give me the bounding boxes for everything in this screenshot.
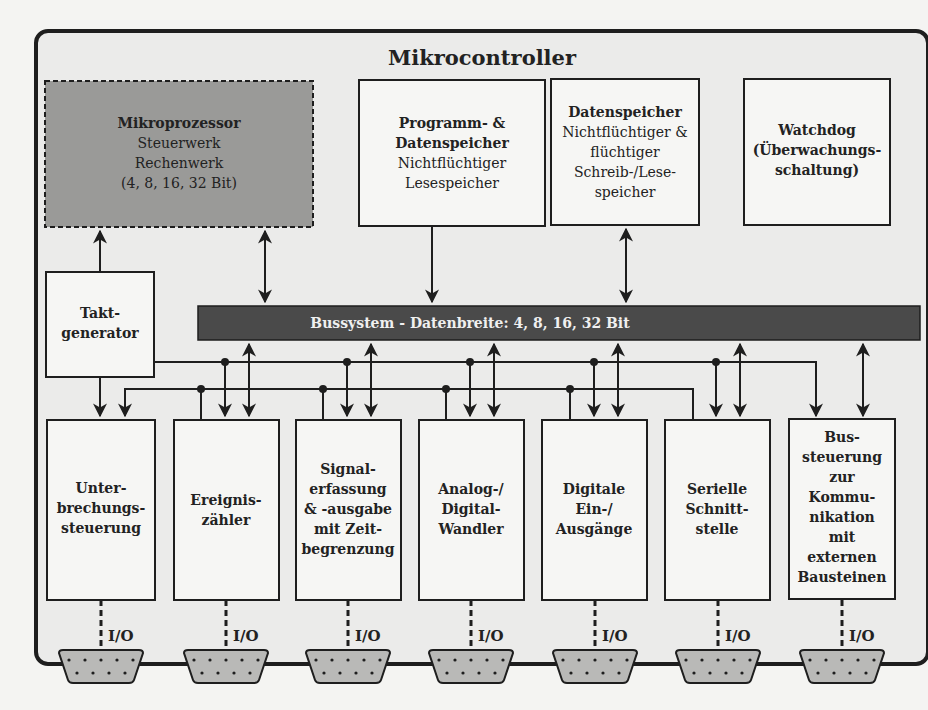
bus-label: Bussystem - Datenbreite: 4, 8, 16, 32 Bi… [310, 315, 630, 331]
clock-label: Takt- [80, 305, 120, 321]
peripheral-signal-capture: Signal- erfassung & -ausgabe mit Zeit- b… [296, 420, 401, 600]
watchdog-block: Watchdog (Überwachungs- schaltung) [744, 79, 890, 225]
watchdog-title: Watchdog [777, 122, 856, 138]
svg-text:externen: externen [807, 549, 876, 565]
processor-title: Mikroprozessor [117, 115, 241, 131]
clock-label: generator [61, 325, 139, 341]
data-memory-title: Datenspeicher [568, 104, 682, 120]
peripheral-serial-interface: Serielle Schnitt- stelle [665, 420, 770, 600]
db9-connector-icon [184, 650, 268, 683]
program-memory-line: Lesespeicher [405, 175, 499, 191]
svg-text:brechungs-: brechungs- [57, 500, 146, 516]
processor-block: Mikroprozessor Steuerwerk Rechenwerk (4,… [45, 81, 313, 227]
svg-text:& -ausgabe: & -ausgabe [304, 501, 392, 517]
db9-connector-icon [429, 650, 513, 683]
data-memory-line: flüchtiger [590, 144, 660, 160]
svg-text:Digitale: Digitale [563, 481, 625, 497]
svg-text:Digital-: Digital- [441, 501, 500, 517]
svg-text:stelle: stelle [696, 521, 739, 537]
svg-text:Signal-: Signal- [320, 461, 376, 477]
svg-text:steuerung: steuerung [802, 449, 882, 465]
program-memory-title: Datenspeicher [395, 135, 509, 151]
peripheral-ad-converter: Analog-/ Digital- Wandler [419, 420, 524, 600]
io-label: I/O [478, 627, 504, 645]
peripheral-digital-io: Digitale Ein-/ Ausgänge [542, 420, 647, 600]
svg-text:mit Zeit-: mit Zeit- [314, 521, 382, 537]
clock-generator-block: Takt- generator [46, 272, 154, 377]
io-label: I/O [602, 627, 628, 645]
bus-system-bar: Bussystem - Datenbreite: 4, 8, 16, 32 Bi… [198, 306, 920, 340]
diagram-title: Mikrocontroller [388, 45, 577, 70]
db9-connector-icon [59, 650, 143, 683]
watchdog-line: (Überwachungs- [753, 140, 882, 158]
io-label: I/O [108, 627, 134, 645]
processor-line: Rechenwerk [135, 155, 224, 171]
svg-text:zur: zur [829, 469, 855, 485]
svg-text:mit: mit [829, 529, 856, 545]
watchdog-line: schaltung) [775, 162, 859, 178]
io-label: I/O [233, 627, 259, 645]
processor-line: (4, 8, 16, 32 Bit) [121, 175, 237, 191]
processor-line: Steuerwerk [138, 135, 221, 151]
svg-text:Bausteinen: Bausteinen [798, 569, 887, 585]
svg-text:Ausgänge: Ausgänge [555, 521, 633, 537]
svg-text:nikation: nikation [809, 509, 875, 525]
program-memory-title: Programm- & [399, 115, 506, 131]
svg-text:Ein-/: Ein-/ [575, 501, 613, 517]
db9-connector-icon [800, 650, 884, 683]
io-label: I/O [355, 627, 381, 645]
svg-text:Serielle: Serielle [687, 481, 747, 497]
svg-text:begrenzung: begrenzung [301, 541, 394, 557]
svg-text:erfassung: erfassung [309, 481, 386, 497]
svg-text:Kommu-: Kommu- [809, 489, 876, 505]
db9-connector-icon [676, 650, 760, 683]
svg-text:Analog-/: Analog-/ [437, 481, 504, 497]
program-memory-line: Nichtflüchtiger [398, 155, 507, 171]
svg-text:Ereignis-: Ereignis- [190, 492, 261, 508]
data-memory-line: Nichtflüchtiger & [562, 124, 687, 140]
db9-connector-icon [306, 650, 390, 683]
peripheral-interrupt-controller: Unter- brechungs- steuerung [47, 420, 155, 600]
microcontroller-block-diagram: Mikrocontroller Mikroprozessor Steuerwer… [0, 0, 928, 710]
svg-text:Bus-: Bus- [824, 429, 860, 445]
program-memory-block: Programm- & Datenspeicher Nichtflüchtige… [359, 80, 545, 226]
svg-text:zähler: zähler [202, 512, 251, 528]
peripheral-bus-controller: Bus- steuerung zur Kommu- nikation mit e… [789, 419, 895, 599]
db9-connector-icon [553, 650, 637, 683]
io-label: I/O [849, 627, 875, 645]
io-label: I/O [725, 627, 751, 645]
peripheral-event-counter: Ereignis- zähler [174, 420, 279, 600]
svg-text:steuerung: steuerung [61, 520, 141, 536]
svg-text:Wandler: Wandler [437, 521, 504, 537]
data-memory-line: Schreib-/Lese- [574, 164, 676, 180]
svg-text:Unter-: Unter- [76, 480, 127, 496]
data-memory-block: Datenspeicher Nichtflüchtiger & flüchtig… [551, 79, 699, 225]
data-memory-line: speicher [595, 184, 656, 200]
svg-text:Schnitt-: Schnitt- [685, 501, 748, 517]
